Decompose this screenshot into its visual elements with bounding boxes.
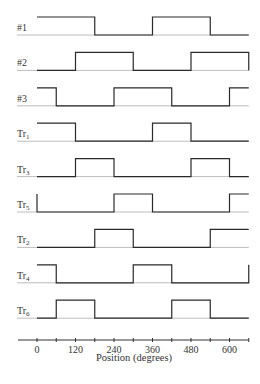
signal-label: Tr1: [17, 128, 30, 141]
signal-row-tr2: Tr2: [17, 229, 249, 247]
signal-label: #3: [17, 93, 27, 104]
waveform: [37, 194, 249, 212]
waveform: [37, 229, 249, 247]
signal-row-phase-1: #1: [17, 17, 249, 35]
waveform: [37, 52, 249, 70]
signal-label: Tr6: [17, 305, 30, 318]
signal-row-tr4: Tr4: [17, 265, 249, 283]
signal-row-tr5: Tr5: [17, 194, 249, 212]
signal-row-tr1: Tr1: [17, 123, 249, 141]
tick-label: 120: [68, 344, 83, 355]
waveform: [37, 17, 249, 35]
waveform: [37, 123, 249, 141]
signal-label: #2: [17, 57, 27, 68]
signal-label: #1: [17, 22, 27, 33]
timing-diagram: #1#2#3Tr1Tr3Tr5Tr2Tr4Tr6 012024036048060…: [0, 0, 260, 384]
tick-label: 0: [35, 344, 40, 355]
tick-label: 480: [184, 344, 199, 355]
waveform: [37, 159, 249, 177]
signal-row-tr3: Tr3: [17, 159, 249, 177]
signal-label: Tr4: [17, 270, 30, 283]
signal-row-phase-3: #3: [17, 88, 249, 106]
waveform: [37, 88, 249, 106]
x-axis-title: Position (degrees): [96, 352, 173, 364]
signal-row-tr6: Tr6: [17, 300, 249, 318]
signal-label: Tr3: [17, 164, 30, 177]
waveform: [37, 300, 249, 318]
tick-label: 600: [222, 344, 237, 355]
signal-row-phase-2: #2: [17, 52, 249, 70]
signal-label: Tr5: [17, 199, 30, 212]
waveform: [37, 265, 249, 283]
signal-rows: #1#2#3Tr1Tr3Tr5Tr2Tr4Tr6: [17, 17, 249, 318]
signal-label: Tr2: [17, 234, 30, 247]
